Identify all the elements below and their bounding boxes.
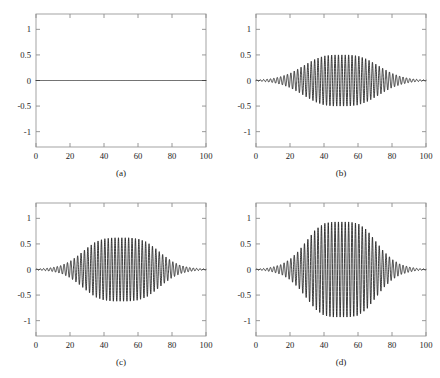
figure-canvas: 10.50-0.5-1 020406080100 (a) 10.50-0.5-1… [0,0,440,378]
x-tick-label: 80 [388,151,397,161]
x-tick-label: 100 [200,151,213,161]
x-tick-label: 60 [134,340,143,350]
x-tick-label: 40 [100,340,109,350]
y-tick-labels-b: 10.50-0.5-1 [237,24,251,136]
y-tick-label: 0.5 [240,50,251,60]
plot-svg-a: 10.50-0.5-1 020406080100 (a) [0,0,220,189]
y-tick-label: 1 [247,24,251,34]
x-tick-label: 100 [200,340,213,350]
x-tick-label: 20 [66,151,75,161]
plot-svg-c: 10.50-0.5-1 020406080100 (c) [0,189,220,378]
x-tick-label: 60 [354,151,363,161]
y-tick-label: 1 [247,213,251,223]
x-tick-label: 80 [168,340,177,350]
x-tick-label: 40 [320,340,329,350]
x-tick-label: 80 [388,340,397,350]
y-tick-label: -0.5 [17,101,31,111]
y-tick-label: -0.5 [237,101,251,111]
y-tick-label: -0.5 [17,290,31,300]
panel-caption-b: (b) [336,168,347,178]
plot-panel-c: 10.50-0.5-1 020406080100 (c) [0,189,220,378]
x-tick-labels-d: 020406080100 [254,340,433,350]
x-tick-label: 60 [134,151,143,161]
y-tick-label: -1 [244,316,251,326]
y-tick-label: 0.5 [20,50,31,60]
x-tick-label: 20 [66,340,75,350]
x-tick-labels-c: 020406080100 [34,340,213,350]
x-tick-label: 0 [34,151,38,161]
x-tick-label: 80 [168,151,177,161]
x-tick-label: 0 [254,340,258,350]
x-tick-label: 20 [286,340,295,350]
x-tick-label: 20 [286,151,295,161]
y-tick-labels-a: 10.50-0.5-1 [17,24,31,136]
y-tick-label: -1 [244,127,251,137]
y-tick-labels-c: 10.50-0.5-1 [17,213,31,325]
y-tick-label: 1 [27,213,31,223]
x-tick-label: 0 [34,340,38,350]
y-tick-label: 0 [27,265,31,275]
y-tick-label: 0.5 [240,239,251,249]
plot-panel-b: 10.50-0.5-1 020406080100 (b) [220,0,440,189]
x-tick-labels-a: 020406080100 [34,151,213,161]
panel-caption-a: (a) [116,168,126,178]
panel-caption-c: (c) [116,357,126,367]
y-tick-label: 0 [247,265,251,275]
x-tick-label: 0 [254,151,258,161]
y-tick-label: -0.5 [237,290,251,300]
plot-panel-d: 10.50-0.5-1 020406080100 (d) [220,189,440,378]
x-tick-label: 40 [320,151,329,161]
y-tick-label: 0 [247,76,251,86]
y-tick-label: -1 [24,127,31,137]
y-tick-label: 0.5 [20,239,31,249]
x-tick-labels-b: 020406080100 [254,151,433,161]
x-tick-label: 100 [420,340,433,350]
y-tick-label: -1 [24,316,31,326]
plot-svg-d: 10.50-0.5-1 020406080100 (d) [220,189,440,378]
y-tick-labels-d: 10.50-0.5-1 [237,213,251,325]
plot-panel-a: 10.50-0.5-1 020406080100 (a) [0,0,220,189]
x-tick-label: 60 [354,340,363,350]
plot-svg-b: 10.50-0.5-1 020406080100 (b) [220,0,440,189]
y-tick-label: 0 [27,76,31,86]
x-tick-label: 100 [420,151,433,161]
panel-caption-d: (d) [336,357,347,367]
y-tick-label: 1 [27,24,31,34]
x-tick-label: 40 [100,151,109,161]
